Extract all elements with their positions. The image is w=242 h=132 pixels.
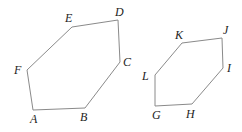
vertex-label-l: L [142,70,149,82]
vertex-label-g: G [152,109,161,121]
vertex-label-a: A [30,113,37,125]
geometry-figure-canvas: A B C D E F G H I J K L [0,0,242,132]
vertex-label-i: I [227,62,231,74]
vertex-label-h: H [186,108,195,120]
vertex-label-c: C [123,56,131,68]
vertex-label-f: F [14,64,21,76]
vertex-label-j: J [223,24,228,36]
vertex-label-k: K [175,29,183,41]
vertex-label-d: D [115,6,124,18]
hexagon-GHIJKL-outline [155,38,223,106]
vertex-label-b: B [80,111,87,123]
hexagon-ABCDEF-outline [27,20,120,110]
vertex-label-e: E [65,12,72,24]
